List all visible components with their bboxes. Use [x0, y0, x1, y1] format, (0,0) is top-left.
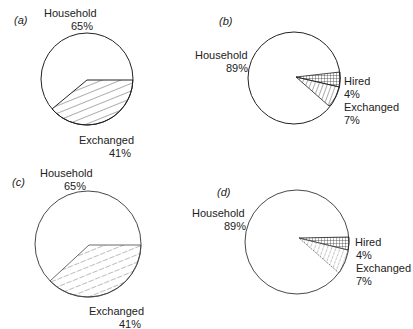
panel-a-tag: (a) — [14, 14, 27, 26]
pie-d-hired-label: Hired — [355, 236, 381, 248]
pie-d-household-label: Household — [192, 207, 245, 219]
pie-c-exchanged-label: Exchanged — [89, 305, 144, 317]
panel-d-tag: (d) — [217, 186, 230, 198]
pie-b-hired-label: Hired — [344, 75, 370, 87]
pie-a-household-label: Household — [44, 7, 97, 19]
pie-b-hired-pct: 4% — [344, 88, 360, 100]
panel-b-tag: (b) — [219, 15, 232, 27]
panel-c-tag: (c) — [12, 176, 25, 188]
pie-c-exchanged-pct: 41% — [119, 318, 141, 329]
pie-b-exchanged-label: Exchanged — [344, 101, 399, 113]
pie-d-exchanged-pct: 7% — [356, 275, 372, 287]
pie-a — [41, 33, 133, 125]
pie-d — [245, 190, 349, 294]
pie-b-household-label: Household — [195, 49, 248, 61]
pie-a-exchanged-pct: 41% — [109, 147, 131, 159]
pie-d-exchanged-label: Exchanged — [356, 262, 411, 274]
pie-d-hired-pct: 4% — [356, 249, 372, 261]
pie-b — [248, 32, 340, 124]
pie-d-household-pct: 89% — [224, 220, 246, 232]
pie-c-household-pct: 65% — [64, 180, 86, 192]
pie-a-exchanged-label: Exchanged — [79, 134, 134, 146]
pie-b-household-pct: 89% — [226, 62, 248, 74]
pie-b-exchanged-pct: 7% — [344, 114, 360, 126]
pie-a-household-pct: 65% — [71, 20, 93, 32]
pie-c-household-label: Household — [40, 167, 93, 179]
pie-c — [35, 191, 141, 297]
